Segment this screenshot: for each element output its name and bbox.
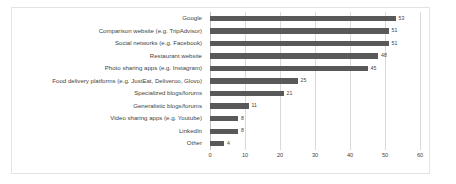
category-label: Specialized blogs/forums <box>0 87 206 100</box>
bar-row: 25 <box>210 75 430 88</box>
bar-row: 8 <box>210 125 430 138</box>
bar-value-label: 51 <box>392 24 398 37</box>
bar <box>210 78 298 83</box>
bar-row: 51 <box>210 37 430 50</box>
category-label: Restaurant website <box>0 50 206 63</box>
bar-value-label: 53 <box>399 12 405 25</box>
x-tick-label: 40 <box>347 152 353 158</box>
bar <box>210 53 378 58</box>
bar-value-label: 8 <box>241 112 244 125</box>
category-axis-labels: GoogleComparison website (e.g. TripAdvis… <box>0 12 206 150</box>
bar-value-label: 21 <box>287 87 293 100</box>
category-label: LinkedIn <box>0 125 206 138</box>
x-tick-label: 60 <box>417 152 423 158</box>
category-label: Google <box>0 12 206 25</box>
category-label: Comparison website (e.g. TripAdvisor) <box>0 25 206 38</box>
category-label: Food delivery platforms (e.g. JustEat, D… <box>0 75 206 88</box>
x-tick-label: 10 <box>242 152 248 158</box>
bar <box>210 28 389 33</box>
bar-row: 53 <box>210 12 430 25</box>
bar-row: 11 <box>210 100 430 113</box>
bar-value-label: 11 <box>252 99 257 112</box>
bar <box>210 16 396 21</box>
category-label: Other <box>0 137 206 150</box>
bars-layer: 5351514845252111884 <box>210 12 430 150</box>
bar <box>210 91 284 96</box>
x-axis-tick-labels: 0102030405060 <box>210 152 420 164</box>
category-label: Generalistic blogs/forums <box>0 100 206 113</box>
chart-container: 5351514845252111884 GoogleComparison web… <box>0 0 456 184</box>
bar-value-label: 51 <box>392 37 398 50</box>
bar-row: 8 <box>210 112 430 125</box>
x-tick-label: 20 <box>277 152 283 158</box>
x-tick-label: 0 <box>208 152 211 158</box>
bar-value-label: 8 <box>241 124 244 137</box>
bar-row: 45 <box>210 62 430 75</box>
bar <box>210 129 238 134</box>
category-label: Photo sharing apps (e.g. Instagram) <box>0 62 206 75</box>
category-label: Social networks (e.g. Facebook) <box>0 37 206 50</box>
bar <box>210 116 238 121</box>
bar-row: 51 <box>210 25 430 38</box>
bar <box>210 66 368 71</box>
bar-value-label: 25 <box>301 74 307 87</box>
bar-value-label: 48 <box>381 49 387 62</box>
bar-row: 4 <box>210 137 430 150</box>
category-label: Video sharing apps (e.g. Youtube) <box>0 112 206 125</box>
bar <box>210 103 249 108</box>
x-tick-label: 50 <box>382 152 388 158</box>
x-tick-label: 30 <box>312 152 318 158</box>
bar-value-label: 4 <box>227 137 230 150</box>
bar-value-label: 45 <box>371 62 377 75</box>
bar-row: 21 <box>210 87 430 100</box>
bar-row: 48 <box>210 50 430 63</box>
bar <box>210 41 389 46</box>
bar <box>210 141 224 146</box>
